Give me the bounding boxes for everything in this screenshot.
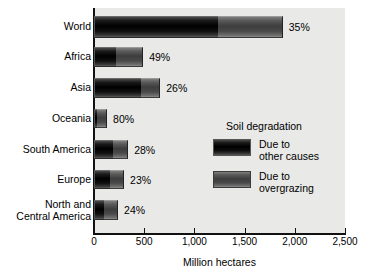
category-label: North and Central America [0,199,91,222]
bar-percent-label: 24% [124,204,145,216]
soil-degradation-bar-chart: 05001,0001,5002,0002,500 35%49%26%80%28%… [0,0,366,278]
bar-row [94,109,107,128]
x-tick-label: 1,000 [171,236,217,248]
bar-percent-label: 49% [149,51,170,63]
bar-row [94,140,128,159]
bar-segment-overgrazing [141,78,160,98]
x-tick-label: 1,500 [222,236,268,248]
bar-percent-label: 26% [166,82,187,94]
x-axis-title: Million hectares [94,256,345,268]
bar-segment-overgrazing [113,140,128,159]
x-tick-mark [295,228,296,235]
bar-row [94,16,283,38]
legend-item-other-causes: Due to other causes [213,139,338,162]
bar-row [94,170,124,189]
legend-swatch-other-causes [213,139,251,156]
bar-segment-other-causes [94,47,116,67]
legend-swatch-overgrazing [213,171,251,188]
x-tick-label: 500 [121,236,167,248]
legend-item-overgrazing: Due to overgrazing [213,171,338,194]
x-tick-mark [144,228,145,235]
category-label: World [0,21,91,33]
legend: Soil degradation Due to other causes Due… [213,120,338,203]
category-label: Oceania [0,113,91,125]
bar-segment-overgrazing [110,170,124,189]
bar-segment-overgrazing [116,47,143,67]
bar-percent-label: 80% [113,113,134,125]
category-label: Africa [0,51,91,63]
legend-label-overgrazing: Due to overgrazing [259,171,314,194]
x-tick-mark [94,228,95,235]
bar-segment-other-causes [94,16,218,38]
category-label: Asia [0,82,91,94]
bar-segment-overgrazing [104,200,118,220]
category-label: Europe [0,174,91,186]
bar-segment-other-causes [94,140,113,159]
bar-segment-overgrazing [97,109,108,128]
category-label: South America [0,144,91,156]
bar-percent-label: 35% [289,21,310,33]
legend-label-other-causes: Due to other causes [259,139,319,162]
x-axis-line [93,233,345,235]
bar-segment-other-causes [94,78,141,98]
bar-percent-label: 23% [130,174,151,186]
x-tick-mark [194,228,195,235]
x-tick-mark [245,228,246,235]
x-tick-mark [345,228,346,235]
legend-title: Soil degradation [226,120,338,132]
x-tick-label: 2,000 [272,236,318,248]
bar-row [94,47,143,67]
x-tick-label: 2,500 [322,236,366,248]
bar-percent-label: 28% [134,144,155,156]
bar-segment-other-causes [94,200,104,220]
bar-row [94,200,118,220]
x-tick-label: 0 [71,236,117,248]
bar-row [94,78,160,98]
bar-segment-other-causes [94,170,110,189]
bar-segment-overgrazing [218,16,283,38]
